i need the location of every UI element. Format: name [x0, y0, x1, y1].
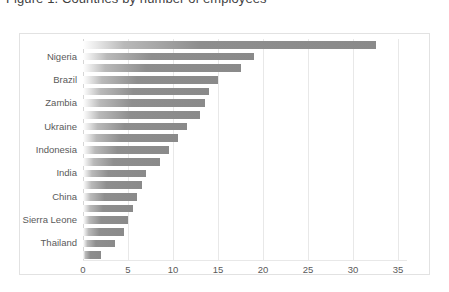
bar[interactable]: [83, 205, 133, 213]
bar[interactable]: [83, 64, 241, 72]
value-tick-label: 15: [213, 265, 224, 275]
bar[interactable]: [83, 170, 146, 178]
value-tick-label: 10: [168, 265, 179, 275]
bar-row: [83, 240, 407, 248]
bar[interactable]: [83, 53, 254, 61]
bar-row: [83, 251, 407, 259]
bar[interactable]: [83, 181, 142, 189]
category-label: China: [52, 192, 77, 202]
category-label: Ukraine: [44, 122, 77, 132]
bar[interactable]: [83, 99, 205, 107]
bar-row: [83, 158, 407, 166]
chart-frame: NigeriaBrazilZambiaUkraineIndonesiaIndia…: [19, 33, 430, 275]
value-tick-label: 25: [303, 265, 314, 275]
bar-row: [83, 99, 407, 107]
bar-row: [83, 111, 407, 119]
bar[interactable]: [83, 76, 218, 84]
plot-area: [83, 39, 407, 261]
bar[interactable]: [83, 123, 187, 131]
bar-row: [83, 216, 407, 224]
bar[interactable]: [83, 111, 200, 119]
bar-row: [83, 205, 407, 213]
bar-row: [83, 76, 407, 84]
figure-title-clip: Figure 1. Countries by number of employe…: [0, 0, 449, 11]
value-axis-labels: 05101520253035: [83, 265, 407, 279]
bar-row: [83, 123, 407, 131]
bar[interactable]: [83, 251, 101, 259]
category-label: Indonesia: [36, 145, 77, 155]
category-label: Thailand: [41, 238, 77, 248]
category-label: Sierra Leone: [23, 215, 77, 225]
category-axis-labels: NigeriaBrazilZambiaUkraineIndonesiaIndia…: [20, 39, 83, 261]
value-tick-label: 5: [125, 265, 130, 275]
category-label: Brazil: [53, 75, 77, 85]
bar[interactable]: [83, 146, 169, 154]
category-label: Zambia: [45, 98, 77, 108]
category-label: India: [56, 168, 77, 178]
bar-row: [83, 146, 407, 154]
bar-series: [83, 39, 407, 261]
bar-row: [83, 64, 407, 72]
value-tick-label: 30: [348, 265, 359, 275]
bar[interactable]: [83, 193, 137, 201]
bar-row: [83, 134, 407, 142]
value-tick-label: 0: [80, 265, 85, 275]
bar-row: [83, 181, 407, 189]
bar-row: [83, 228, 407, 236]
bar[interactable]: [83, 158, 160, 166]
bar-row: [83, 170, 407, 178]
bar[interactable]: [83, 240, 115, 248]
bar[interactable]: [83, 216, 128, 224]
page-title: Figure 1. Countries by number of employe…: [6, 0, 267, 6]
bar[interactable]: [83, 134, 178, 142]
bar-row: [83, 41, 407, 49]
bar-row: [83, 193, 407, 201]
bar-row: [83, 53, 407, 61]
category-label: Nigeria: [47, 52, 77, 62]
bar[interactable]: [83, 88, 209, 96]
value-tick-label: 20: [258, 265, 269, 275]
bar-row: [83, 88, 407, 96]
value-tick-label: 35: [393, 265, 404, 275]
bar[interactable]: [83, 228, 124, 236]
bar[interactable]: [83, 41, 376, 49]
